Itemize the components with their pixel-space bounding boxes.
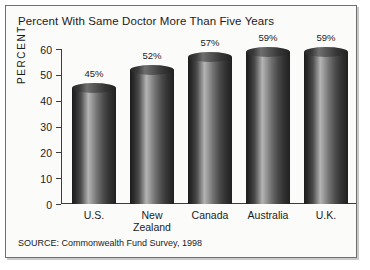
x-axis-category-label: U.S. [66, 210, 122, 222]
y-axis-tick: 50 [56, 75, 61, 76]
y-axis-title: PERCENT [16, 25, 27, 84]
bar-group: 45%U.S.52%New Zealand57%Canada59%Austral… [72, 49, 351, 204]
bar-top-ellipse [72, 83, 116, 93]
bar-item[interactable]: 59%Australia [246, 52, 290, 204]
bar-top-ellipse [130, 65, 174, 75]
bar-value-label: 57% [188, 37, 232, 48]
bar-cylinder [246, 52, 290, 204]
y-axis-tick-label: 50 [40, 69, 52, 81]
plot-area: 0102030405060 45%U.S.52%New Zealand57%Ca… [61, 49, 351, 204]
x-axis-category-label: New Zealand [124, 210, 180, 233]
bar-item[interactable]: 45%U.S. [72, 88, 116, 204]
bar-cylinder [188, 57, 232, 204]
y-axis-tick-label: 40 [40, 95, 52, 107]
y-axis-tick: 0 [56, 204, 61, 205]
y-axis-tick: 60 [56, 49, 61, 50]
bar-value-label: 59% [246, 32, 290, 43]
y-axis-line [61, 49, 62, 204]
bar-value-label: 52% [130, 50, 174, 61]
bar-item[interactable]: 57%Canada [188, 57, 232, 204]
bar-top-ellipse [246, 47, 290, 57]
y-axis-tick: 30 [56, 127, 61, 128]
y-axis-tick-label: 20 [40, 147, 52, 159]
bar-item[interactable]: 59%U.K. [304, 52, 348, 204]
y-axis-tick: 40 [56, 101, 61, 102]
y-axis-tick-label: 0 [46, 199, 52, 211]
bar-top-ellipse [188, 52, 232, 62]
bar-item[interactable]: 52%New Zealand [130, 70, 174, 204]
y-axis-tick-label: 60 [40, 44, 52, 56]
bar-cylinder [72, 88, 116, 204]
y-axis-tick-label: 10 [40, 173, 52, 185]
y-axis-tick: 20 [56, 152, 61, 153]
x-axis-category-label: Canada [182, 210, 238, 222]
page-title: Percent With Same Doctor More Than Five … [18, 15, 274, 27]
chart-figure: Percent With Same Doctor More Than Five … [5, 5, 357, 258]
x-axis-category-label: Australia [240, 210, 296, 222]
y-axis-tick-label: 30 [40, 121, 52, 133]
bar-cylinder [130, 70, 174, 204]
bar-value-label: 59% [304, 32, 348, 43]
bar-cylinder [304, 52, 348, 204]
y-axis-tick: 10 [56, 178, 61, 179]
bar-top-ellipse [304, 47, 348, 57]
source-note: SOURCE: Commonwealth Fund Survey, 1998 [18, 238, 202, 248]
x-axis-category-label: U.K. [298, 210, 354, 222]
bar-value-label: 45% [72, 68, 116, 79]
